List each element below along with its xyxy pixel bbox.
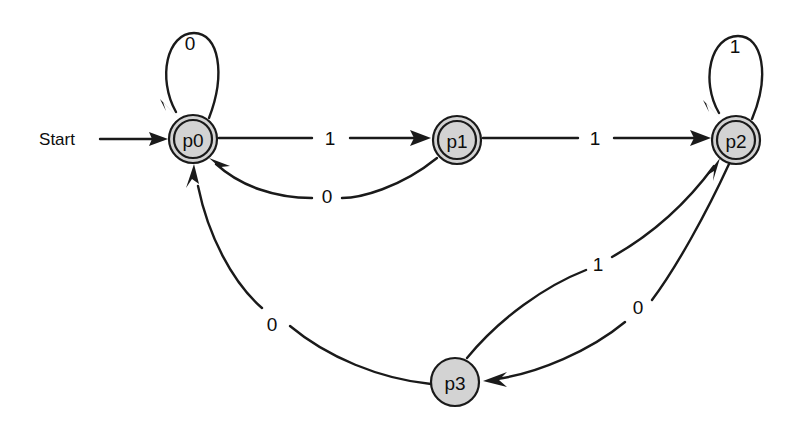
transition-p3-p2-path-a xyxy=(467,270,586,358)
transition-p1-p0-path-a xyxy=(342,158,437,198)
start-label: Start xyxy=(39,130,75,149)
state-node-p0[interactable]: p0 xyxy=(169,115,217,163)
transition-p0-p0-arrowhead-icon xyxy=(160,99,180,120)
transition-p3-p0-arrowhead-icon xyxy=(186,164,199,188)
state-node-p1[interactable]: p1 xyxy=(433,116,481,164)
state-p3-label: p3 xyxy=(444,373,465,394)
state-node-p2[interactable]: p2 xyxy=(712,116,760,164)
transition-p2-p3 xyxy=(483,164,729,387)
transition-p2-p3-path-b xyxy=(497,322,625,379)
transition-p3-p2-label: 1 xyxy=(593,254,604,275)
transition-p2-p2-arrowhead-icon xyxy=(703,100,723,121)
transition-p3-p2-arrowhead-icon xyxy=(706,158,720,181)
start-arrow xyxy=(100,132,168,146)
diagram-canvas: Start 0 1 0 1 xyxy=(0,0,804,430)
state-machine-diagram: Start 0 1 0 1 xyxy=(0,0,804,430)
transition-p2-p3-label: 0 xyxy=(633,297,644,318)
state-p2-label: p2 xyxy=(725,131,746,152)
transition-p3-p0-label: 0 xyxy=(267,314,278,335)
state-node-p3[interactable]: p3 xyxy=(431,358,479,406)
transition-p2-p2-label: 1 xyxy=(730,36,741,57)
state-p0-label: p0 xyxy=(182,130,203,151)
transition-p1-p0-arrowhead-icon xyxy=(209,158,230,173)
transition-p1-p0-path-b xyxy=(216,164,312,198)
transition-p0-p0-label: 0 xyxy=(185,33,196,54)
transition-p1-p0-label: 0 xyxy=(322,186,333,207)
transition-p2-p3-path-a xyxy=(652,164,729,300)
transition-p3-p0-path-a xyxy=(290,326,431,384)
state-p1-label: p1 xyxy=(446,131,467,152)
transition-p1-p2-label: 1 xyxy=(590,128,601,149)
transition-p3-p0-path-b xyxy=(198,186,262,308)
transition-p3-p2-path-b xyxy=(612,166,714,257)
transition-p0-p1-label: 1 xyxy=(325,128,336,149)
transition-p2-p3-arrowhead-icon xyxy=(483,372,507,387)
